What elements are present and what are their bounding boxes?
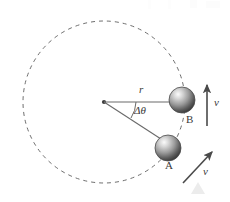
angle-label: Δθ — [134, 104, 146, 116]
ball-a-label: A — [165, 159, 173, 171]
circular-motion-diagram — [0, 0, 230, 202]
radius-label: r — [139, 83, 143, 95]
ball-a — [155, 135, 181, 161]
radius-line-a — [104, 102, 161, 139]
velocity-b-label: v — [214, 96, 219, 108]
ball-b-label: B — [186, 113, 193, 125]
watermark-triangle-icon — [191, 182, 205, 194]
velocity-a-label: v — [203, 165, 208, 177]
ball-b — [169, 87, 195, 113]
figure-canvas: r Δθ B A v v — [0, 0, 230, 202]
watermark-top — [148, 0, 220, 9]
